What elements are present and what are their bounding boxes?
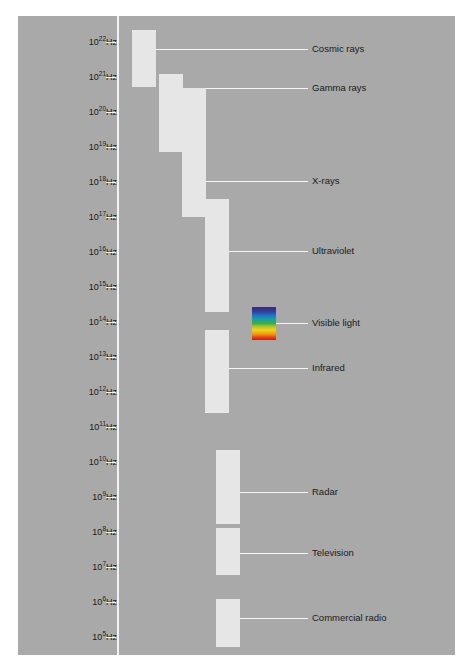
axis-tick-mark [106, 602, 116, 603]
axis-tick-15: 1015Hz [18, 282, 117, 292]
axis-tick-18: 1018Hz [18, 177, 117, 187]
band-label-ultraviolet: Ultraviolet [312, 246, 354, 256]
axis-tick-mark [106, 392, 116, 393]
leader-line-ultraviolet [229, 251, 308, 252]
axis-tick-mark [106, 497, 116, 498]
axis-tick-22: 1022Hz [18, 37, 117, 47]
leader-line-radar [240, 492, 308, 493]
band-bar-radar [216, 450, 240, 524]
axis-tick-21: 1021Hz [18, 72, 117, 82]
axis-tick-9: 109Hz [18, 492, 117, 502]
axis-tick-mark [106, 462, 116, 463]
band-bar-ultraviolet [205, 199, 229, 312]
band-label-gamma-rays: Gamma rays [312, 83, 366, 93]
axis-tick-16: 1016Hz [18, 247, 117, 257]
axis-tick-14: 1014Hz [18, 317, 117, 327]
band-label-radar: Radar [312, 487, 338, 497]
spectrum-panel: 1022Hz1021Hz1020Hz1019Hz1018Hz1017Hz1016… [18, 16, 455, 655]
axis-tick-mark [106, 182, 116, 183]
leader-line-television [240, 553, 308, 554]
axis-tick-mark [106, 637, 116, 638]
leader-line-commercial-radio [240, 618, 308, 619]
axis-tick-5: 105Hz [18, 632, 117, 642]
band-label-commercial-radio: Commercial radio [312, 613, 386, 623]
axis-tick-20: 1020Hz [18, 107, 117, 117]
axis-tick-13: 1013Hz [18, 352, 117, 362]
axis-tick-17: 1017Hz [18, 212, 117, 222]
band-bar-x-rays [182, 88, 206, 217]
band-label-x-rays: X-rays [312, 176, 339, 186]
band-bar-television [216, 528, 240, 575]
axis-tick-mark [106, 252, 116, 253]
axis-tick-mark [106, 217, 116, 218]
axis-tick-mark [106, 42, 116, 43]
axis-tick-11: 1011Hz [18, 422, 117, 432]
leader-line-x-rays [206, 181, 308, 182]
axis-tick-mark [106, 147, 116, 148]
axis-tick-mark [106, 77, 116, 78]
leader-line-cosmic-rays [156, 49, 308, 50]
band-bar-infrared [205, 330, 229, 413]
axis-tick-12: 1012Hz [18, 387, 117, 397]
axis-tick-8: 108Hz [18, 527, 117, 537]
axis-tick-mark [106, 322, 116, 323]
leader-line-visible-light [276, 323, 308, 324]
band-label-visible-light: Visible light [312, 318, 360, 328]
band-bar-visible-light [252, 307, 276, 340]
frequency-axis-line [117, 16, 119, 655]
axis-tick-10: 1010Hz [18, 457, 117, 467]
axis-tick-mark [106, 112, 116, 113]
band-label-infrared: Infrared [312, 363, 345, 373]
band-bar-gamma-rays [159, 74, 183, 152]
axis-tick-19: 1019Hz [18, 142, 117, 152]
leader-line-infrared [229, 368, 308, 369]
diagram-canvas: 1022Hz1021Hz1020Hz1019Hz1018Hz1017Hz1016… [0, 0, 463, 663]
band-bar-cosmic-rays [132, 30, 156, 87]
axis-tick-mark [106, 427, 116, 428]
axis-tick-6: 106Hz [18, 597, 117, 607]
axis-tick-mark [106, 287, 116, 288]
axis-tick-mark [106, 532, 116, 533]
band-label-cosmic-rays: Cosmic rays [312, 44, 364, 54]
axis-tick-7: 107Hz [18, 562, 117, 572]
band-label-television: Television [312, 548, 354, 558]
band-bar-commercial-radio [216, 599, 240, 647]
axis-tick-mark [106, 567, 116, 568]
axis-tick-mark [106, 357, 116, 358]
